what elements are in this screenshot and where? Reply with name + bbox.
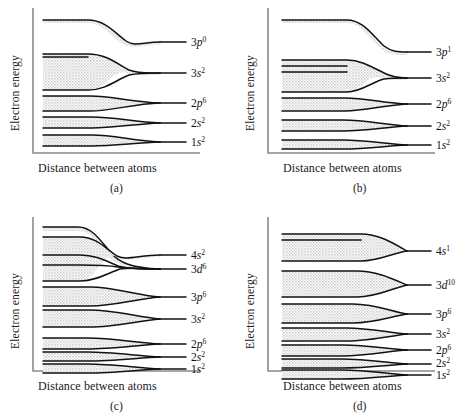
- level-label-3d: 3d10: [436, 278, 455, 292]
- band-3p-edge: [43, 20, 160, 44]
- band-2s-fill: [282, 120, 407, 131]
- level-label-1s: 1s2: [436, 368, 450, 382]
- panel-c: 4s2 3d6 3p6 3s2 2p6 2s2 1s2 Electron ene…: [0, 209, 235, 418]
- y-axis-label: Electron energy: [9, 273, 22, 349]
- band-2p-fill: [282, 98, 407, 111]
- level-label-3s: 3s2: [436, 327, 450, 341]
- panel-a-plot: 3p0 3s2 2p6 2s2 1s2 Electron energy Dist…: [0, 0, 235, 209]
- level-label-2p: 2p6: [191, 96, 207, 111]
- level-label-2p: 2p6: [436, 97, 452, 112]
- level-label-3p: 3p6: [191, 290, 207, 305]
- panel-tag-a: (a): [110, 182, 123, 195]
- x-axis-label: Distance between atoms: [38, 161, 157, 175]
- level-label-4s: 4s2: [191, 248, 205, 262]
- panel-c-plot: 4s2 3d6 3p6 3s2 2p6 2s2 1s2 Electron ene…: [0, 209, 235, 419]
- band-4s-fill: [282, 234, 407, 261]
- level-label-3d: 3d6: [191, 262, 207, 276]
- panel-a: 3p0 3s2 2p6 2s2 1s2 Electron energy Dist…: [0, 0, 235, 209]
- level-label-3p: 3p0: [191, 35, 207, 50]
- y-axis-label: Electron energy: [9, 55, 22, 131]
- band-2p-fill: [282, 345, 407, 356]
- panel-tag-c: (c): [110, 400, 123, 413]
- level-label-3p: 3p6: [436, 307, 452, 322]
- x-axis-label: Distance between atoms: [38, 379, 157, 393]
- panel-tag-b: (b): [353, 182, 367, 195]
- level-label-2s: 2s2: [436, 119, 450, 133]
- level-label-2s: 2s2: [191, 116, 205, 130]
- level-label-1s: 1s2: [436, 138, 450, 152]
- band-3p-fill: [282, 304, 407, 323]
- level-label-3s: 3s2: [191, 312, 205, 326]
- band-3p-edge: [282, 20, 407, 52]
- panel-b: 3p1 3s2 2p6 2s2 1s2 Electron energy Dist…: [235, 0, 470, 209]
- band-2p-fill: [43, 338, 160, 349]
- band-2s-fill: [43, 352, 160, 361]
- level-label-3p: 3p1: [436, 45, 452, 60]
- panel-d-plot: 4s1 3d10 3p6 3s2 2p6 2s2 1s2 Electron en…: [235, 209, 470, 419]
- panel-b-plot: 3p1 3s2 2p6 2s2 1s2 Electron energy Dist…: [235, 0, 470, 209]
- level-label-1s: 1s2: [191, 135, 205, 149]
- x-axis-label: Distance between atoms: [283, 161, 402, 175]
- band-2s-fill: [43, 117, 160, 128]
- level-label-1s: 1s2: [191, 362, 205, 376]
- band-3s-fill: [282, 60, 407, 92]
- band-3s-fill: [282, 328, 407, 341]
- y-axis-label: Electron energy: [244, 273, 257, 349]
- level-label-3s: 3s2: [436, 71, 450, 85]
- x-axis-label: Distance between atoms: [283, 379, 402, 393]
- level-label-3s: 3s2: [191, 66, 205, 80]
- band-3p-fill: [282, 20, 407, 55]
- band-3s-fill: [43, 310, 160, 327]
- band-1s-fill: [282, 140, 407, 149]
- band-2s-fill: [282, 359, 407, 368]
- band-3d-fill: [282, 271, 407, 297]
- band-3p-fill: [43, 287, 160, 306]
- level-label-4s: 4s1: [436, 244, 450, 258]
- energy-band-figure: 3p0 3s2 2p6 2s2 1s2 Electron energy Dist…: [0, 0, 470, 419]
- band-2p-fill: [43, 96, 160, 111]
- panel-tag-d: (d): [353, 400, 367, 413]
- y-axis-label: Electron energy: [244, 55, 257, 131]
- panel-d: 4s1 3d10 3p6 3s2 2p6 2s2 1s2 Electron en…: [235, 209, 470, 418]
